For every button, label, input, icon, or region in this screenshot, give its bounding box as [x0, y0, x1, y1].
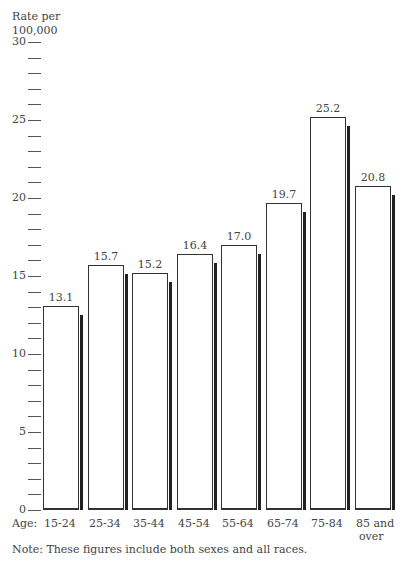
y-tick [28, 136, 41, 137]
bar [177, 254, 213, 510]
y-tick [28, 307, 41, 308]
bar-shadow [258, 254, 261, 510]
bar-value-label: 13.1 [41, 291, 81, 304]
y-tick [28, 182, 41, 183]
y-tick [28, 42, 41, 43]
bar-value-label: 19.7 [264, 188, 304, 201]
y-tick-label: 5 [6, 425, 26, 438]
bar-shadow [347, 126, 350, 510]
y-tick [28, 120, 41, 121]
x-tick-label: 75-84 [311, 517, 343, 530]
y-tick [28, 463, 41, 464]
y-axis-title-line1: Rate per [12, 10, 60, 24]
bar-value-label: 17.0 [219, 230, 259, 243]
y-tick [28, 151, 41, 152]
x-tick-label: 65-74 [267, 517, 299, 530]
y-tick [28, 214, 41, 215]
bar [355, 186, 391, 510]
y-tick [28, 432, 41, 433]
bar-shadow [392, 195, 395, 510]
bar-shadow [214, 263, 217, 510]
y-tick-label: 25 [6, 113, 26, 126]
y-tick-label: 30 [6, 35, 26, 48]
y-tick-label: 15 [6, 269, 26, 282]
bar-value-label: 15.7 [86, 250, 126, 263]
bar-shadow [80, 315, 83, 510]
bar [310, 117, 346, 510]
y-tick [28, 167, 41, 168]
x-tick-label: 55-64 [222, 517, 254, 530]
bar-shadow [303, 212, 306, 510]
y-tick [28, 416, 41, 417]
y-tick [28, 89, 41, 90]
y-tick [28, 370, 41, 371]
bar-shadow [125, 274, 128, 510]
y-tick [28, 323, 41, 324]
y-tick [28, 354, 41, 355]
bar [266, 203, 302, 510]
y-tick [28, 58, 41, 59]
y-tick [28, 479, 41, 480]
bar-value-label: 20.8 [353, 171, 393, 184]
y-tick-label: 0 [6, 503, 26, 516]
bar [221, 245, 257, 510]
bar-value-label: 15.2 [130, 258, 170, 271]
y-tick [28, 292, 41, 293]
y-tick [28, 338, 41, 339]
y-tick [28, 73, 41, 74]
y-tick [28, 385, 41, 386]
x-tick-label: 15-24 [44, 517, 76, 530]
y-tick [28, 245, 41, 246]
y-tick [28, 276, 41, 277]
x-axis-prefix: Age: [12, 517, 37, 530]
y-tick [28, 494, 41, 495]
bar [88, 265, 124, 510]
bar-shadow [169, 282, 172, 510]
x-tick-label: 85 andover [356, 517, 394, 543]
y-tick [28, 229, 41, 230]
y-tick [28, 510, 41, 511]
y-axis-title: Rate per 100,000 [12, 10, 60, 38]
bar [132, 273, 168, 510]
bar [43, 306, 79, 510]
x-tick-label: 45-54 [178, 517, 210, 530]
y-tick-label: 10 [6, 347, 26, 360]
y-tick [28, 198, 41, 199]
y-tick [28, 401, 41, 402]
x-tick-label: 25-34 [89, 517, 121, 530]
bar-value-label: 25.2 [308, 102, 348, 115]
bar-value-label: 16.4 [175, 239, 215, 252]
y-tick [28, 448, 41, 449]
y-tick [28, 260, 41, 261]
y-tick [28, 104, 41, 105]
footnote: Note: These figures include both sexes a… [12, 543, 307, 556]
x-tick-label: 35-44 [133, 517, 165, 530]
y-tick-label: 20 [6, 191, 26, 204]
